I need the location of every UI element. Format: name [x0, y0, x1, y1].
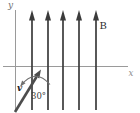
field-line-arrowhead — [93, 10, 99, 21]
angle-label: 30° — [31, 91, 46, 101]
field-line-arrowhead — [76, 10, 82, 21]
physics-diagram: y x B v 30° — [0, 0, 140, 113]
x-axis-label: x — [129, 68, 134, 78]
field-line-arrowhead — [29, 10, 35, 21]
field-line-arrowhead — [45, 10, 51, 21]
field-line-arrowhead — [60, 10, 66, 21]
field-label: B — [100, 20, 107, 31]
y-axis-label: y — [7, 0, 14, 10]
